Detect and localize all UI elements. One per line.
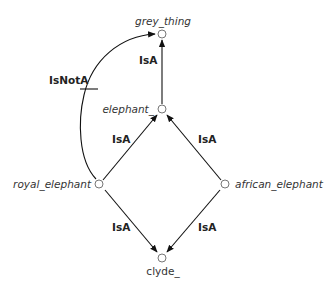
edge-label-isa-mid-right: IsA [198,133,217,145]
node-clyde [158,254,166,262]
edge-label-isnota: IsNotA [49,74,89,86]
node-elephant [158,105,166,113]
edge-african-to-elephant [167,115,221,180]
node-label-royal-elephant: royal_elephant [13,178,92,191]
edge-label-isa-bottom-left: IsA [112,221,131,233]
node-royal-elephant [95,180,103,188]
node-label-african-elephant: african_elephant [235,178,324,191]
edge-royal-to-elephant [103,115,157,180]
edge-label-isa-top: IsA [139,54,158,66]
node-label-elephant: elephant_ [102,103,154,116]
node-grey-thing [158,30,166,38]
node-label-clyde: clyde_ [146,265,180,278]
node-label-grey-thing: grey_thing [135,15,191,28]
edge-label-isa-mid-left: IsA [112,133,131,145]
edge-label-isa-bottom-right: IsA [198,221,217,233]
node-african-elephant [221,180,229,188]
inheritance-diagram: IsA IsA IsA IsA IsA IsNotA grey_thing el… [0,0,333,291]
